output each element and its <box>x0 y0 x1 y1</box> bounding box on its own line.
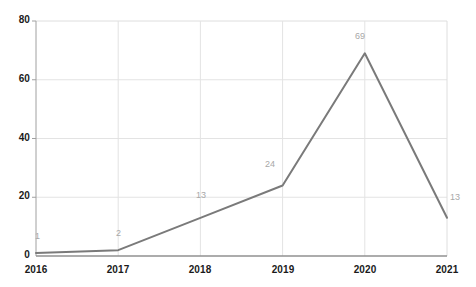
data-series-line <box>36 53 447 253</box>
data-label-2020: 69 <box>355 31 365 41</box>
ytick-label-0: 0 <box>6 249 30 260</box>
data-label-2017: 2 <box>116 228 121 238</box>
data-label-2019: 24 <box>265 159 275 169</box>
data-label-2021: 13 <box>450 192 460 202</box>
xtick-label-2019: 2019 <box>258 264 308 275</box>
y-axis-ticks <box>32 21 36 197</box>
series-polyline <box>36 53 447 253</box>
data-label-2016: 1 <box>35 231 40 241</box>
chart-canvas <box>0 0 476 287</box>
xtick-label-2016: 2016 <box>11 264 61 275</box>
ytick-label-40: 40 <box>6 132 30 143</box>
xtick-label-2018: 2018 <box>175 264 225 275</box>
ytick-label-20: 20 <box>6 190 30 201</box>
xtick-label-2017: 2017 <box>93 264 143 275</box>
data-label-2018: 13 <box>196 190 206 200</box>
grid-lines <box>36 21 447 256</box>
ytick-label-60: 60 <box>6 73 30 84</box>
xtick-label-2021: 2021 <box>422 264 472 275</box>
ytick-label-80: 80 <box>6 14 30 25</box>
line-chart: 80 60 40 20 0 2016 2017 2018 2019 2020 2… <box>0 0 476 287</box>
xtick-label-2020: 2020 <box>340 264 390 275</box>
